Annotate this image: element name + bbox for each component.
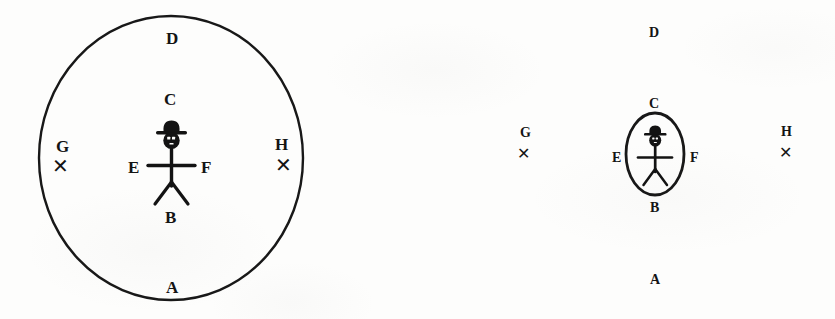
x-mark-right: ✕ bbox=[779, 145, 792, 161]
x-mark-left: ✕ bbox=[517, 146, 530, 162]
left-leg bbox=[644, 169, 656, 185]
label-G: G bbox=[520, 126, 531, 140]
small-ellipse-graphics bbox=[420, 0, 835, 319]
small-ellipse-diagram: D C G H E F B A ✕ ✕ bbox=[420, 0, 835, 319]
label-F: F bbox=[201, 159, 211, 176]
label-B: B bbox=[650, 201, 659, 215]
right-leg bbox=[655, 169, 667, 185]
hat-crown-icon bbox=[163, 121, 179, 132]
label-C: C bbox=[164, 91, 176, 108]
face-highlight bbox=[172, 137, 175, 140]
face-highlight bbox=[654, 142, 657, 143]
label-B: B bbox=[165, 209, 176, 226]
scanned-figure-page: D C G H E F B A ✕ ✕ bbox=[0, 0, 835, 319]
label-A: A bbox=[166, 279, 178, 296]
x-mark-left: ✕ bbox=[52, 156, 69, 176]
face-highlight bbox=[167, 137, 170, 140]
left-leg bbox=[155, 182, 172, 204]
face-highlight bbox=[656, 138, 658, 140]
label-G: G bbox=[56, 138, 69, 155]
label-E: E bbox=[128, 159, 139, 176]
face-highlight bbox=[652, 138, 654, 140]
large-circle-diagram: D C G H E F B A ✕ ✕ bbox=[0, 0, 420, 319]
label-E: E bbox=[612, 151, 621, 165]
label-D: D bbox=[649, 26, 659, 40]
face-highlight bbox=[169, 143, 173, 145]
label-H: H bbox=[275, 136, 288, 153]
stick-figure-with-hat bbox=[638, 126, 672, 186]
label-A: A bbox=[650, 273, 660, 287]
x-mark-right: ✕ bbox=[275, 155, 292, 175]
label-F: F bbox=[690, 151, 699, 165]
label-C: C bbox=[649, 97, 659, 111]
stick-figure-with-hat bbox=[148, 121, 195, 205]
hat-crown-icon bbox=[649, 126, 661, 134]
label-H: H bbox=[781, 125, 792, 139]
right-leg bbox=[172, 182, 189, 204]
label-D: D bbox=[166, 30, 178, 47]
